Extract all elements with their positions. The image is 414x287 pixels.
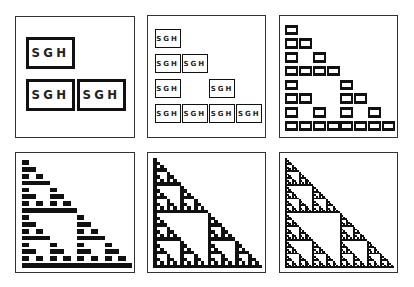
fractal-cell xyxy=(105,243,112,248)
fractal-cell xyxy=(22,229,29,234)
fractal-cell xyxy=(77,256,84,261)
fractal-cell xyxy=(56,194,63,199)
fractal-cell xyxy=(29,222,36,227)
sgh-box xyxy=(354,121,367,132)
sgh-box-inner xyxy=(287,69,296,73)
sgh-box xyxy=(354,93,367,104)
sgh-box xyxy=(285,66,298,77)
fractal-cell xyxy=(259,265,263,268)
panel-4 xyxy=(15,152,135,273)
fractal-cell xyxy=(22,243,29,248)
sgh-box-inner xyxy=(287,55,296,59)
fractal-cell xyxy=(91,256,98,261)
sgh-box-inner xyxy=(342,124,351,128)
sgh-box: SGH xyxy=(182,54,208,74)
sgh-box: SGH xyxy=(209,79,235,99)
fractal-cell xyxy=(84,249,91,254)
sgh-box xyxy=(340,93,353,104)
sgh-box xyxy=(285,38,298,49)
sgh-box-inner xyxy=(370,124,379,128)
sgh-box-inner xyxy=(301,124,310,128)
sgh-box-inner xyxy=(356,124,365,128)
sgh-box-inner xyxy=(315,55,324,59)
sgh-box-inner xyxy=(287,96,296,100)
sgh-box-inner xyxy=(329,69,338,73)
fractal-cell xyxy=(77,243,84,248)
fractal-cell xyxy=(43,181,50,186)
sgh-box-inner xyxy=(370,110,379,114)
fractal-cell xyxy=(56,249,63,254)
fractal-cell xyxy=(118,256,125,261)
fractal-cell xyxy=(36,174,43,179)
sgh-box xyxy=(368,121,381,132)
sgh-box-inner xyxy=(287,28,296,32)
sgh-box-inner xyxy=(287,41,296,45)
sgh-box: SGH xyxy=(77,79,125,112)
sgh-box xyxy=(313,66,326,77)
sgh-box: SGH xyxy=(236,104,262,124)
fractal-cell xyxy=(36,229,43,234)
sgh-box-inner xyxy=(342,110,351,114)
panel-2: SGHSGHSGHSGHSGHSGHSGHSGHSGH xyxy=(147,15,266,138)
sgh-box-inner xyxy=(342,83,351,87)
sgh-box-inner xyxy=(301,69,310,73)
fractal-cell xyxy=(111,249,118,254)
sgh-box xyxy=(285,25,298,36)
fractal-cell xyxy=(392,266,394,268)
sgh-box-inner xyxy=(329,124,338,128)
fractal-cell xyxy=(50,188,57,193)
sgh-box xyxy=(340,107,353,118)
fractal-cell xyxy=(91,229,98,234)
sgh-box xyxy=(299,93,312,104)
sgh-box: SGH xyxy=(26,79,74,112)
sgh-box-inner xyxy=(287,124,296,128)
fractal-cell xyxy=(50,256,57,261)
sgh-box-inner xyxy=(287,83,296,87)
sgh-box xyxy=(313,121,326,132)
sgh-box: SGH xyxy=(26,37,74,70)
sgh-box xyxy=(368,107,381,118)
sgh-box xyxy=(299,121,312,132)
fractal-cell xyxy=(77,229,84,234)
fractal-cell xyxy=(22,201,29,206)
sgh-box: SGH xyxy=(155,104,181,124)
fractal-cell xyxy=(29,194,36,199)
sgh-box xyxy=(382,121,395,132)
fractal-cell xyxy=(22,256,29,261)
sgh-box xyxy=(285,107,298,118)
fractal-cell xyxy=(84,222,91,227)
sgh-box: SGH xyxy=(209,104,235,124)
sgh-box: SGH xyxy=(155,79,181,99)
fractal-cell xyxy=(63,201,70,206)
sgh-box: SGH xyxy=(155,54,181,74)
sgh-box xyxy=(327,66,340,77)
sgh-box-inner xyxy=(384,124,393,128)
fractal-cell xyxy=(50,201,57,206)
sgh-box xyxy=(327,121,340,132)
sgh-box: SGH xyxy=(155,29,181,49)
fractal-cell xyxy=(36,201,43,206)
sgh-box-inner xyxy=(342,96,351,100)
fractal-cell xyxy=(70,208,77,213)
sgh-box xyxy=(285,52,298,63)
fractal-cell xyxy=(22,215,29,220)
sgh-box-inner xyxy=(301,96,310,100)
sgh-box xyxy=(285,121,298,132)
panel-3 xyxy=(279,15,398,138)
fractal-cell xyxy=(77,215,84,220)
fractal-cell xyxy=(125,263,132,268)
fractal-cell xyxy=(22,188,29,193)
sgh-box-inner xyxy=(315,124,324,128)
panel-1: SGHSGHSGH xyxy=(15,16,135,138)
sgh-box xyxy=(299,38,312,49)
sgh-box-inner xyxy=(287,110,296,114)
sgh-box xyxy=(285,93,298,104)
fractal-cell xyxy=(22,174,29,179)
fractal-cell xyxy=(43,236,50,241)
sgh-box xyxy=(340,121,353,132)
fractal-cell xyxy=(63,256,70,261)
sgh-box: SGH xyxy=(182,104,208,124)
fractal-cell xyxy=(29,167,36,172)
panel-5 xyxy=(147,152,266,273)
sgh-box xyxy=(313,52,326,63)
